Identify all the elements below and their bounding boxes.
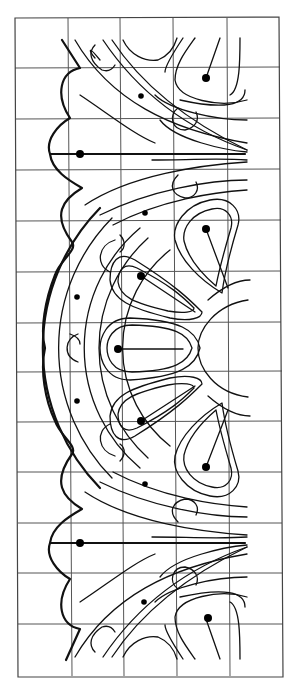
leaf-dot [76,539,84,547]
leaf-dot [202,74,210,82]
rosette-hub [198,300,248,397]
petal-dot [202,463,210,471]
ring-dot [142,210,148,216]
ring-dot [142,481,148,487]
ring-dot [74,398,80,404]
petal-dot [137,417,145,425]
ornament-drawing [0,0,298,694]
leaf-dot [76,150,84,158]
grid-frame [15,17,283,677]
leaf-dot [138,93,144,99]
leaf-dot [204,614,212,622]
leaf-dot [141,599,147,605]
scalloped-outline [43,40,82,660]
petal-dot [137,272,145,280]
petal-dot [114,345,122,353]
rosette-rings [43,208,248,488]
ring-dot [74,294,80,300]
petal-dot [202,225,210,233]
